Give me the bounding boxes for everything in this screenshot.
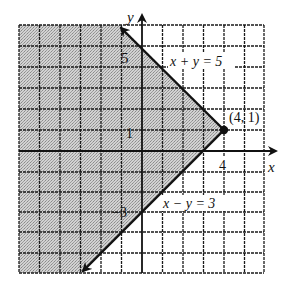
y-axis-label: y <box>125 9 134 25</box>
vertex-point <box>220 126 228 134</box>
y-tick-neg3: −3 <box>112 205 127 220</box>
inequality-graph: x + y = 5 x − y = 3 (4, 1) x y 4 5 1 −3 <box>0 0 285 292</box>
line-label-x-minus-y-3: x − y = 3 <box>162 196 215 211</box>
vertex-label: (4, 1) <box>229 110 260 126</box>
x-tick-4: 4 <box>219 158 226 173</box>
y-tick-1: 1 <box>126 126 133 141</box>
y-tick-5: 5 <box>121 50 129 66</box>
line-label-x-plus-y-5: x + y = 5 <box>169 54 222 69</box>
x-axis-label: x <box>267 159 275 175</box>
